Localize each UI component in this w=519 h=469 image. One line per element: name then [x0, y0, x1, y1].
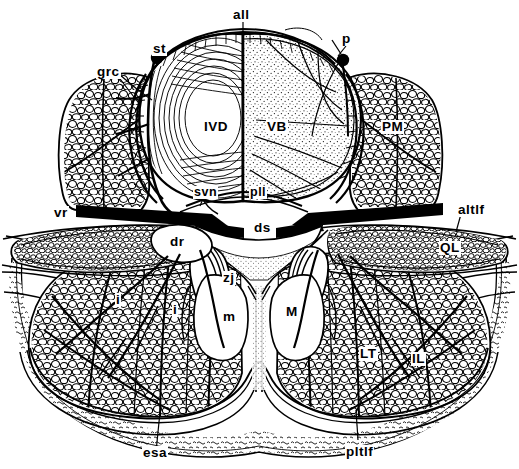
label-m: m	[222, 310, 237, 324]
label-QL: QL	[439, 241, 461, 255]
label-pltlf: pltlf	[345, 445, 374, 459]
multifidus-left	[194, 275, 248, 360]
label-vr: vr	[53, 206, 69, 220]
label-all: all	[232, 8, 251, 22]
label-svn: svn	[193, 186, 218, 199]
label-st: st	[152, 42, 167, 56]
label-IVD: IVD	[203, 120, 229, 134]
label-zj: zj	[222, 271, 236, 285]
label-IL: IL	[411, 352, 426, 366]
label-dr: dr	[169, 235, 186, 249]
label-VB: VB	[266, 120, 288, 134]
label-p: p	[341, 32, 352, 46]
label-ds: ds	[253, 221, 272, 235]
label-PM: PM	[381, 120, 404, 134]
label-LT: LT	[359, 347, 378, 361]
label-pll: pll	[249, 186, 267, 199]
label-esa: esa	[142, 446, 168, 460]
label-M: M	[285, 305, 299, 319]
label-i-left: i	[115, 293, 121, 307]
label-i-mid: i	[172, 303, 178, 317]
label-grc: grc	[96, 65, 121, 79]
label-r: r	[144, 186, 149, 194]
anatomical-figure: allstpgrcIVDVBPMrsvnpllvraltlfdsdrQLzjii…	[0, 0, 519, 469]
label-altlf: altlf	[457, 203, 486, 217]
